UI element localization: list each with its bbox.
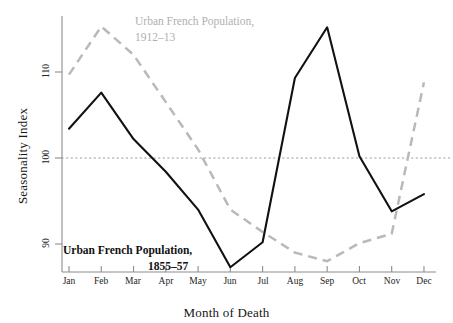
y-axis-ticks [55,72,62,244]
x-tick-label-dec: Dec [404,276,444,286]
y-axis-title: Seasonality Index [15,56,31,256]
y-tick-label-110: 110 [41,58,51,84]
y-tick-label-100: 100 [41,144,51,170]
x-axis-title: Month of Death [0,305,453,321]
y-tick-label-90: 90 [41,230,51,256]
series-label-1855-line2: 1855–57 [63,258,192,274]
chart-plot-area [0,0,453,323]
series-label-1912-line1: Urban French Population, [135,15,254,27]
series-label-1912-line2: 1912–13 [135,31,175,43]
series-label-1855-57: Urban French Population, 1855–57 [63,242,192,274]
series-label-1855-line1: Urban French Population, [63,244,192,256]
series-line-1912-13 [69,26,424,261]
series-label-1912-13: Urban French Population, 1912–13 [135,14,254,45]
series-line-1855-57 [69,27,424,267]
chart-figure: 110 100 90 Jan Feb Mar Apr May Jun Jul A… [0,0,453,323]
